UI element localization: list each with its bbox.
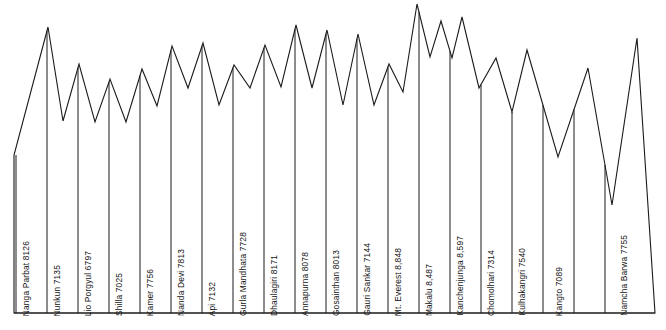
peak-label: Kamer 7756 [146, 269, 154, 316]
peak-label: Chomolhari 7314 [487, 250, 495, 316]
peak-label: Namcha Barwa 7755 [620, 235, 628, 316]
peak-label: Api 7132 [208, 282, 216, 316]
peak-label: Gauri Sankar 7144 [363, 243, 371, 316]
peak-label: Nanga Parbat 8126 [22, 241, 30, 316]
peak-label: Kulhakangri 7540 [518, 248, 526, 316]
peak-label: Dhaulagiri 8171 [270, 255, 278, 316]
peak-label: Nanda Devi 7813 [177, 249, 185, 316]
peak-label: Gurla Mandhata 7728 [239, 232, 247, 316]
peak-label: Nunkun 7135 [53, 265, 61, 316]
peak-label: Gosainthan 8013 [332, 250, 340, 316]
peak-label: Kanchenjunga 8,597 [456, 236, 464, 316]
peak-label: Makalu 8,487 [425, 264, 433, 316]
peak-label: Mt. Everest 8,848 [394, 248, 402, 316]
mountain-profile-figure: Nanga Parbat 8126Nunkun 7135Lio Porgyul … [0, 0, 666, 330]
peak-label: Shilla 7025 [115, 273, 123, 316]
peak-label: Annapurna 8078 [301, 252, 309, 316]
peak-label: Lio Porgyul 6797 [84, 251, 92, 316]
peak-label: Kangto 7089 [555, 267, 563, 316]
